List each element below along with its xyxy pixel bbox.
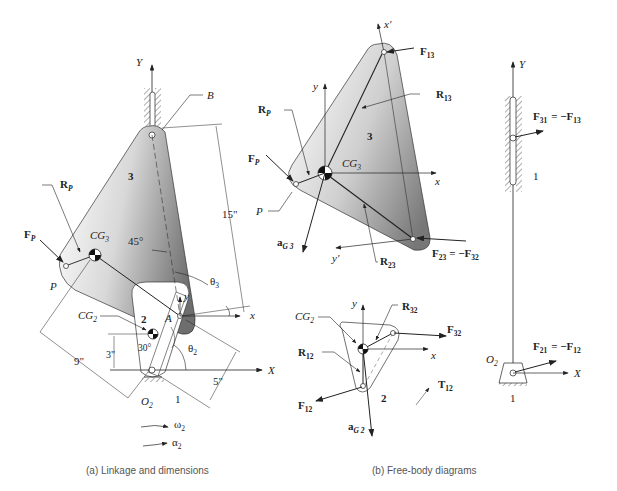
cg2-symbol bbox=[148, 329, 158, 339]
label-F23: F23= −F32 bbox=[432, 247, 479, 262]
torque-T12-arrow bbox=[416, 388, 429, 405]
force-Fp bbox=[40, 240, 63, 262]
label-ground-a: 1 bbox=[175, 393, 181, 405]
panel-b-link3-fbd: 3 x' y' x y R13 F13 R23 F23= −F32 bbox=[248, 18, 479, 270]
label-Rp-fbd: RP bbox=[258, 103, 271, 118]
dim-9: 9" bbox=[74, 355, 84, 367]
label-Fp: FP bbox=[24, 228, 36, 243]
label-yprime: y' bbox=[331, 252, 340, 264]
label-ground-bot-b1: 1 bbox=[510, 392, 516, 404]
ground-hatch-right bbox=[155, 88, 161, 126]
cg3-symbol bbox=[89, 249, 101, 261]
label-P: P bbox=[49, 280, 57, 292]
label-O2-a: O2 bbox=[141, 395, 153, 410]
label-B: B bbox=[207, 89, 214, 101]
slot bbox=[150, 92, 155, 128]
pin-B-fbd bbox=[382, 50, 387, 55]
label-R13: R13 bbox=[436, 88, 452, 103]
label-F21: F21= −F12 bbox=[533, 340, 581, 355]
dim-9-line bbox=[40, 332, 128, 398]
label-y-b2: y bbox=[351, 297, 357, 309]
dim-15: 15" bbox=[222, 208, 238, 220]
label-ground-top-b1: 1 bbox=[533, 170, 539, 182]
ground-hatch-right-b1 bbox=[516, 96, 522, 192]
link-2-label: 2 bbox=[141, 313, 147, 325]
label-CG2-fbd: CG2 bbox=[295, 310, 314, 325]
pin-P-fbd bbox=[294, 182, 299, 187]
dim-5-ext2 bbox=[158, 375, 210, 408]
dim-3: 3" bbox=[106, 349, 115, 360]
theta2-arc bbox=[174, 345, 186, 370]
force-F32 bbox=[394, 333, 446, 336]
label-alpha2: α2 bbox=[172, 436, 182, 451]
force-F12 bbox=[316, 387, 362, 401]
link-2-fbd-label: 2 bbox=[381, 392, 387, 404]
ground-hatch-left bbox=[144, 88, 150, 126]
link-2-fbd bbox=[340, 322, 399, 392]
label-F32: F32 bbox=[447, 323, 461, 338]
label-Y-a: Y bbox=[136, 56, 144, 68]
dim-15-ext bbox=[162, 124, 222, 128]
angle-45: 45° bbox=[128, 235, 143, 247]
label-F12: F12 bbox=[298, 399, 312, 414]
label-x-a: x bbox=[249, 309, 255, 321]
link-3-fbd-label: 3 bbox=[367, 130, 373, 142]
diagram-svg: Y 3 2 B CG3 45° P RP bbox=[0, 0, 617, 491]
label-y-a: y bbox=[183, 290, 189, 302]
angle-30: 30° bbox=[138, 343, 152, 353]
figure-canvas: Y 3 2 B CG3 45° P RP bbox=[0, 0, 617, 491]
caption-a: (a) Linkage and dimensions bbox=[86, 465, 209, 476]
label-xprime: x' bbox=[383, 18, 392, 30]
pivot-hatch bbox=[142, 378, 164, 382]
label-aG2: aG 2 bbox=[348, 420, 365, 435]
label-R23: R23 bbox=[380, 255, 396, 270]
link-3-fbd bbox=[288, 43, 430, 250]
label-X-a: X bbox=[267, 364, 276, 376]
dim-5: 5" bbox=[213, 375, 223, 387]
omega2-arrow bbox=[141, 426, 168, 428]
pin-P bbox=[64, 264, 69, 269]
label-R32: R32 bbox=[402, 300, 418, 315]
label-P-fbd: P bbox=[255, 205, 263, 217]
caption-b: (b) Free-body diagrams bbox=[372, 465, 476, 476]
label-F31: F31= −F13 bbox=[533, 110, 581, 125]
label-x-b2: x bbox=[430, 349, 436, 361]
label-omega2: ω2 bbox=[174, 418, 185, 433]
label-Y-b1: Y bbox=[519, 58, 527, 70]
label-theta3: θ3 bbox=[210, 275, 219, 290]
label-X-b1: X bbox=[573, 367, 582, 379]
label-Fp-fbd: FP bbox=[248, 152, 260, 167]
panel-b-link2-fbd: 2 x y R32 F32 R12 F12 CG2 aG 2 bbox=[295, 297, 476, 476]
label-F13: F13 bbox=[420, 45, 434, 60]
panel-b-ground-fbd: Y F31= −F13 1 X F21= −F12 O2 1 bbox=[486, 58, 582, 404]
leader-P-fbd bbox=[268, 192, 292, 211]
panel-a-linkage: Y 3 2 B CG3 45° P RP bbox=[24, 56, 276, 476]
label-CG2-a: CG2 bbox=[78, 309, 97, 324]
leader-B bbox=[162, 95, 203, 130]
label-R12: R12 bbox=[298, 346, 314, 361]
theta3-arc-ref bbox=[226, 306, 230, 316]
label-y-b3: y bbox=[312, 80, 318, 92]
label-O2-b1: O2 bbox=[486, 353, 498, 368]
pivot-O2 bbox=[149, 367, 155, 373]
label-aG3: aG 3 bbox=[277, 236, 294, 251]
alpha2-arrow bbox=[143, 443, 167, 446]
label-x-b3: x bbox=[434, 175, 440, 187]
pin-A-fbd bbox=[411, 237, 416, 242]
pin-B-b1 bbox=[510, 135, 516, 141]
force-Fp-fbd bbox=[266, 155, 293, 181]
label-Rp: RP bbox=[60, 178, 73, 193]
label-A: A bbox=[164, 312, 172, 324]
pivot-hatch-b1 bbox=[499, 383, 527, 386]
link-3-label: 3 bbox=[128, 170, 134, 182]
label-theta2: θ2 bbox=[188, 342, 197, 357]
label-T12: T12 bbox=[438, 378, 453, 393]
